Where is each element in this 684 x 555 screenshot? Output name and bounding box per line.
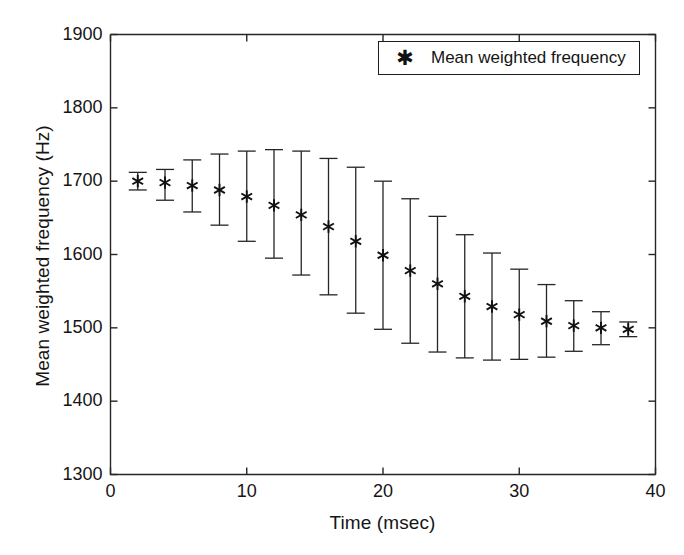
legend-entry-label: Mean weighted frequency [431,48,636,68]
data-point-marker [487,300,498,312]
data-point-marker [405,264,416,276]
data-point-marker [132,175,143,187]
data-point-marker [459,290,470,302]
data-point-marker [214,184,225,196]
data-point-marker [160,176,171,188]
data-point-marker [187,179,198,191]
data-point-marker [323,220,334,232]
data-point-marker [568,319,579,331]
data-point-marker [296,209,307,221]
data-point-marker [432,278,443,290]
data-series-mean-weighted-frequency [129,150,638,360]
chart-legend[interactable]: ✱ Mean weighted frequency [378,41,640,75]
plot-area [0,0,684,555]
legend-asterisk-icon: ✱ [379,48,431,69]
data-point-marker [596,322,607,334]
figure-canvas: Mean weighted frequency (Hz) Time (msec)… [0,0,684,555]
data-point-marker [350,235,361,247]
data-point-marker [623,323,634,335]
data-point-marker [541,315,552,327]
data-point-marker [378,249,389,261]
data-point-marker [241,190,252,202]
data-point-marker [514,308,525,320]
data-point-marker [269,199,280,211]
